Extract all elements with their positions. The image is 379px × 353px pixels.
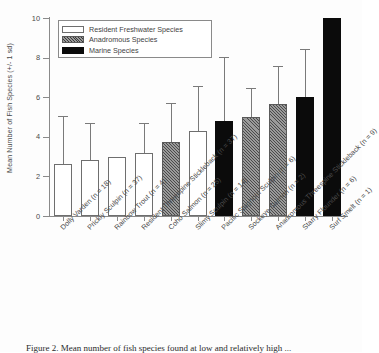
error-bar-line-5 <box>198 87 199 131</box>
error-bar-line-4 <box>171 104 172 142</box>
legend-label-marine: Marine Species <box>89 46 139 55</box>
error-bar-cap-3 <box>139 123 149 124</box>
error-bar-cap-5 <box>193 86 203 87</box>
y-tick-label-10: 10 <box>14 14 40 23</box>
error-bar-cap-7 <box>246 88 256 89</box>
legend-label-freshwater: Resident Freshwater Species <box>89 25 183 34</box>
error-bar-cap-4 <box>166 103 176 104</box>
y-tick-0 <box>43 216 49 217</box>
legend-item-marine: Marine Species <box>62 45 211 56</box>
y-tick-8 <box>43 58 49 59</box>
error-bar-cap-1 <box>85 123 95 124</box>
legend-item-resident-freshwater: Resident Freshwater Species <box>62 24 211 35</box>
y-tick-label-6: 6 <box>14 93 40 102</box>
y-tick-2 <box>43 176 49 177</box>
y-tick-4 <box>43 137 49 138</box>
y-axis-title: Mean Number of Fish Species (+/- 1 sd) <box>2 0 18 216</box>
y-axis-title-text: Mean Number of Fish Species (+/- 1 sd) <box>6 43 14 173</box>
error-bar-line-3 <box>144 124 145 153</box>
error-bar-cap-6 <box>219 57 229 58</box>
x-axis-category-labels: Dolly Varden (n = 18)Prickly Sculpin (n … <box>0 223 362 348</box>
legend-item-anadromous: Anadromous Species <box>62 35 211 46</box>
legend-box: Resident Freshwater Species Anadromous S… <box>58 20 212 58</box>
bar-10 <box>323 18 341 216</box>
y-tick-label-0: 0 <box>14 212 40 221</box>
bar-0 <box>54 164 72 216</box>
legend-swatch-freshwater-icon <box>62 26 84 33</box>
y-tick-label-2: 2 <box>14 172 40 181</box>
error-bar-line-6 <box>224 58 225 121</box>
error-bar-line-8 <box>278 67 279 105</box>
error-bar-cap-8 <box>273 66 283 67</box>
error-bar-cap-9 <box>300 49 310 50</box>
error-bar-line-0 <box>63 117 64 164</box>
error-bar-cap-0 <box>58 116 68 117</box>
y-tick-label-4: 4 <box>14 132 40 141</box>
y-tick-label-8: 8 <box>14 53 40 62</box>
error-bar-line-9 <box>305 50 306 98</box>
error-bar-line-1 <box>90 124 91 160</box>
figure-caption: Figure 2. Mean number of fish species fo… <box>26 343 356 353</box>
error-bar-line-7 <box>251 89 252 117</box>
legend-swatch-marine-icon <box>62 47 84 54</box>
legend-label-anadromous: Anadromous Species <box>89 35 157 44</box>
legend-swatch-anadromous-icon <box>62 36 84 43</box>
y-tick-10 <box>43 18 49 19</box>
y-tick-6 <box>43 97 49 98</box>
